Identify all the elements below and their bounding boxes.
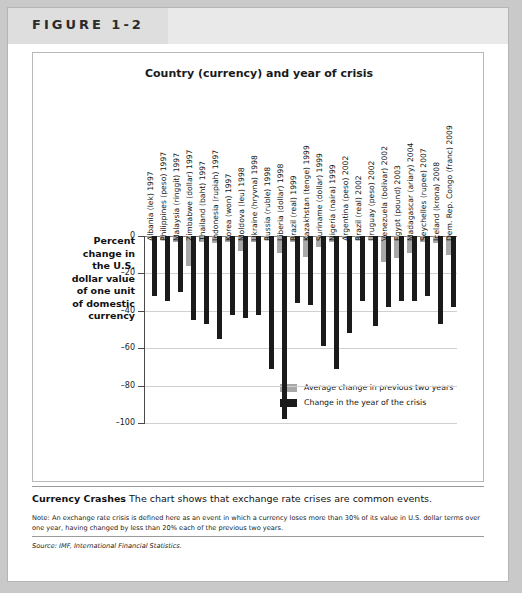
bar-crisis-change — [256, 236, 261, 315]
x-axis-category-label: Korea (won) 1997 — [224, 174, 233, 241]
y-axis-tick — [138, 311, 145, 312]
x-axis-category-label: Nigeria (naira) 1999 — [328, 164, 337, 241]
bar-crisis-change — [360, 236, 365, 301]
y-axis-tick-label: –80 — [95, 381, 135, 390]
gridline — [145, 423, 457, 424]
legend-item-average: Average change in previous two years — [280, 383, 453, 392]
x-axis-category-label: Indonesia (rupiah) 1997 — [211, 150, 220, 241]
caption-divider — [32, 486, 484, 487]
x-axis-category-label: Thailand (baht) 1997 — [198, 161, 207, 241]
x-axis-category-label: Kazakhstan (tenge) 1999 — [302, 145, 311, 241]
bar-crisis-change — [451, 236, 456, 307]
bar-crisis-change — [412, 236, 417, 301]
bar-crisis-change — [425, 236, 430, 296]
x-axis-category-label: Iceland (krona) 2008 — [432, 162, 441, 241]
y-axis-tick-label: –100 — [95, 418, 135, 427]
legend-label-crisis: Change in the year of the crisis — [304, 398, 426, 407]
chart-legend: Average change in previous two years Cha… — [280, 383, 453, 413]
y-axis-tick — [138, 236, 145, 237]
gridline — [145, 386, 457, 387]
y-axis-tick — [138, 348, 145, 349]
y-axis-tick — [138, 386, 145, 387]
y-axis-tick — [138, 423, 145, 424]
bar-crisis-change — [217, 236, 222, 339]
y-axis-tick-label: –20 — [95, 268, 135, 277]
chart-frame: Country (currency) and year of crisis Pe… — [32, 52, 484, 482]
gridline — [145, 348, 457, 349]
figure-card: FIGURE 1-2 Country (currency) and year o… — [8, 8, 508, 581]
bar-crisis-change — [399, 236, 404, 301]
bar-crisis-change — [152, 236, 157, 296]
chart-title: Country (currency) and year of crisis — [33, 67, 485, 80]
legend-label-average: Average change in previous two years — [304, 383, 453, 392]
bar-crisis-change — [230, 236, 235, 315]
x-axis-category-label: Seychelles (rupee) 2007 — [419, 148, 428, 241]
caption-text: The chart shows that exchange rate crise… — [129, 493, 432, 504]
source-divider — [32, 536, 484, 537]
x-axis-category-label: Dem. Rep. Congo (franc) 2009 — [445, 125, 454, 241]
x-axis-category-label: Uruguay (peso) 2002 — [367, 161, 376, 241]
figure-label: FIGURE 1-2 — [32, 17, 144, 32]
bar-crisis-change — [204, 236, 209, 324]
x-axis-category-label: Madagascar (ariary) 2004 — [406, 143, 415, 241]
bar-crisis-change — [178, 236, 183, 292]
y-axis-line — [144, 236, 145, 424]
x-axis-category-label: Malaysia (ringgit) 1997 — [172, 153, 181, 241]
x-axis-category-label: Russia (ruble) 1998 — [263, 167, 272, 241]
bar-crisis-change — [282, 236, 287, 419]
legend-item-crisis: Change in the year of the crisis — [280, 398, 453, 407]
bar-crisis-change — [191, 236, 196, 320]
x-axis-category-label: Venezuela (bolivar) 2002 — [380, 146, 389, 241]
x-axis-category-label: Liberia (dollar) 1998 — [276, 164, 285, 241]
y-axis-tick-label: 0 — [95, 231, 135, 240]
bar-crisis-change — [243, 236, 248, 318]
figure-header: FIGURE 1-2 — [8, 8, 508, 44]
x-axis-category-label: Suriname (dollar) 1999 — [315, 153, 324, 241]
x-axis-category-label: Moldova (leu) 1998 — [237, 167, 246, 241]
bar-crisis-change — [321, 236, 326, 346]
x-axis-category-label: Egypt (pound) 2003 — [393, 165, 402, 241]
y-axis-tick-label: –40 — [95, 306, 135, 315]
x-axis-category-label: Ukraine (hryvna) 1998 — [250, 155, 259, 241]
bar-crisis-change — [347, 236, 352, 333]
x-axis-category-label: Philippines (peso) 1997 — [159, 152, 168, 241]
x-axis-category-label: Argentina (peso) 2002 — [341, 156, 350, 241]
bar-crisis-change — [165, 236, 170, 301]
bar-crisis-change — [386, 236, 391, 307]
x-axis-category-label: Zimbabwe (dollar) 1997 — [185, 150, 194, 241]
bar-crisis-change — [438, 236, 443, 324]
caption-title: Currency Crashes — [32, 493, 126, 504]
bar-crisis-change — [334, 236, 339, 369]
x-axis-category-label: Brazil (real) 1999 — [289, 175, 298, 241]
bar-crisis-change — [295, 236, 300, 303]
x-axis-category-label: Brazil (real) 2002 — [354, 175, 363, 241]
figure-source: Source: IMF, International Financial Sta… — [32, 542, 484, 550]
figure-caption: Currency Crashes The chart shows that ex… — [32, 492, 484, 505]
bar-crisis-change — [269, 236, 274, 369]
y-axis-tick — [138, 273, 145, 274]
bar-crisis-change — [373, 236, 378, 326]
figure-note: Note: An exchange rate crisis is defined… — [32, 514, 484, 533]
bar-crisis-change — [308, 236, 313, 305]
x-axis-category-label: Albania (lek) 1997 — [146, 171, 155, 241]
y-axis-tick-label: –60 — [95, 343, 135, 352]
